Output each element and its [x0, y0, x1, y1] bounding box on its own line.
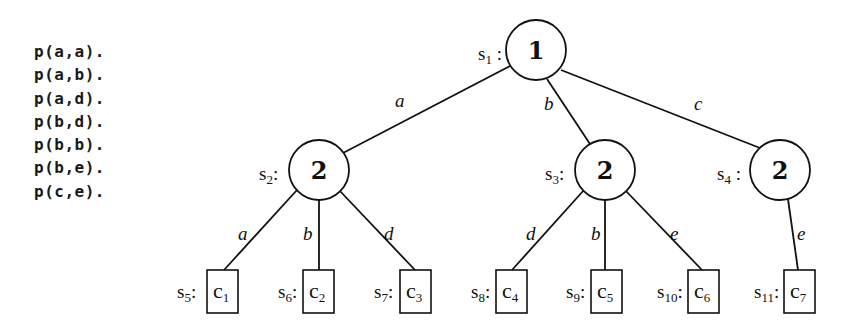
node-value: 2 — [772, 156, 789, 185]
edge-label: b — [303, 223, 313, 244]
edge-label: d — [526, 223, 536, 244]
edge-s1-s4 — [561, 70, 760, 148]
edge-s2-s5 — [224, 190, 297, 270]
state-label: s5: — [177, 281, 196, 305]
state-label: s10: — [657, 281, 683, 305]
edge-label: a — [238, 223, 248, 244]
edge-label: b — [591, 223, 601, 244]
state-label: s11: — [754, 281, 779, 305]
node-value: 2 — [597, 156, 614, 185]
tree-leaf-s6: c2 s6: — [278, 270, 334, 313]
tree-node-s4: 2 s4 : — [717, 140, 810, 200]
edge-s3-s10 — [625, 190, 702, 270]
tree-leaf-s5: c1 s5: — [177, 270, 238, 313]
tree-node-s2: 2 s2: — [259, 140, 349, 200]
edge-s3-s8 — [512, 190, 584, 270]
edge-s2-s7 — [339, 190, 415, 270]
edge-label: b — [544, 93, 554, 114]
tree-leaf-s8: c4 s8: — [471, 270, 527, 313]
edge-label: c — [694, 93, 703, 114]
tree-node-s3: 2 s3: — [545, 140, 635, 200]
state-label: s9: — [566, 281, 585, 305]
tree-node-s1: 1 s1 : — [478, 20, 566, 80]
state-label: s6: — [278, 281, 297, 305]
edge-s1-s2 — [343, 66, 510, 153]
tree-leaf-s7: c3 s7: — [374, 270, 431, 313]
search-tree-diagram: a b c a b d d b e e 1 s1 : 2 s2: 2 s3: 2… — [0, 0, 849, 333]
state-label: s8: — [471, 281, 490, 305]
state-label: s4 : — [717, 163, 741, 187]
node-value: 2 — [311, 156, 328, 185]
state-label: s7: — [374, 281, 393, 305]
tree-leaf-s9: c5 s9: — [566, 270, 622, 313]
tree-leaf-s10: c6 s10: — [657, 270, 719, 313]
state-label: s3: — [545, 163, 564, 187]
edge-label: e — [670, 223, 678, 244]
state-label: s1 : — [478, 43, 502, 67]
tree-leaf-s11: c7 s11: — [754, 270, 815, 313]
state-label: s2: — [259, 163, 278, 187]
edge-label: a — [395, 90, 405, 111]
edge-label: e — [797, 223, 805, 244]
node-value: 1 — [528, 36, 545, 65]
edge-label: d — [384, 223, 394, 244]
